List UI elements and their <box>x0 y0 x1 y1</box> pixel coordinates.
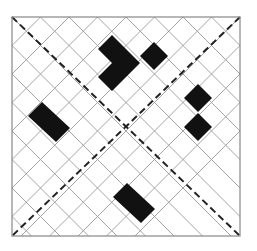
diamond-grid-diagram <box>0 0 256 251</box>
grid-line <box>212 17 257 236</box>
top-single-diamond <box>140 42 168 70</box>
top-cluster-block <box>98 35 140 91</box>
bottom-bar <box>113 183 155 223</box>
grid-line <box>0 17 12 236</box>
grid-line <box>0 17 3 236</box>
grid-line <box>240 17 256 236</box>
grid-line <box>69 17 256 236</box>
grid-line <box>0 17 41 236</box>
